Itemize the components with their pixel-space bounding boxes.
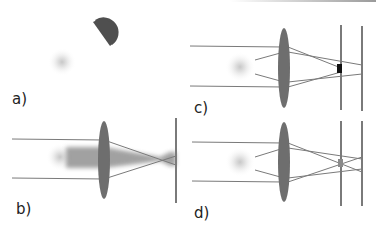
lens	[278, 28, 290, 108]
blur-spot	[225, 147, 255, 177]
ray-out-3	[288, 74, 362, 82]
ray-out-4	[288, 72, 341, 87]
light-beam	[66, 147, 176, 168]
panel-c-label: c)	[194, 101, 208, 116]
panel-b	[12, 118, 176, 203]
top-edge-bar	[230, 0, 376, 2]
panel-a-label: a)	[12, 92, 27, 107]
panel-d-label: d)	[194, 206, 209, 221]
blur-spot	[225, 52, 255, 82]
detector	[337, 64, 342, 73]
panel-c	[190, 25, 362, 111]
lens	[278, 122, 290, 202]
panel-d	[192, 121, 362, 206]
optics-diagram	[0, 0, 376, 232]
ray-bottom	[190, 86, 284, 87]
ray-out-3	[288, 169, 362, 178]
ray-out-4	[288, 157, 362, 182]
ray-top	[190, 46, 284, 47]
ray-bottom	[192, 181, 284, 182]
detector	[338, 159, 343, 167]
blur-spot	[48, 48, 76, 76]
panel-b-label: b)	[16, 202, 31, 217]
ray-out-1	[288, 47, 341, 68]
ray-top	[192, 142, 284, 143]
ray-bottom	[12, 178, 104, 179]
ray-top	[12, 139, 104, 140]
panel-a	[48, 17, 119, 76]
ray-out-2	[288, 52, 362, 65]
lens	[98, 121, 110, 199]
